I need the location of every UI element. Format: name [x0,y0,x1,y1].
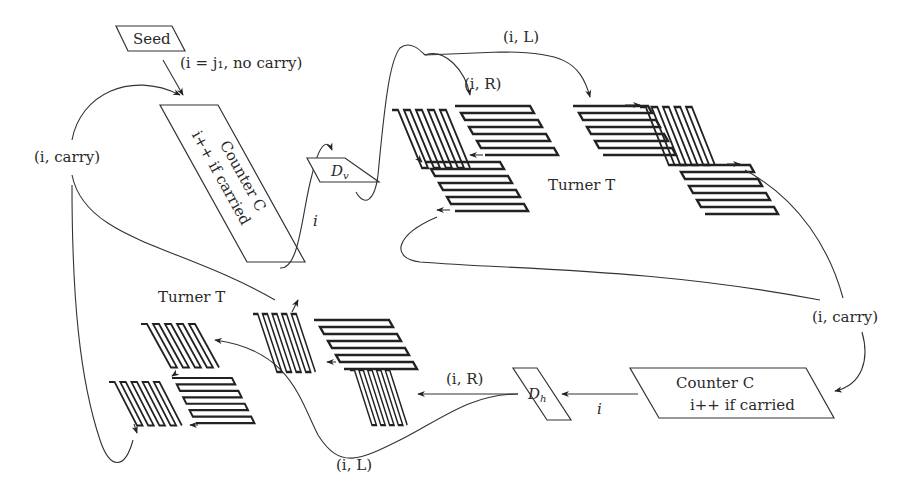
turner-bottom-out-edge [72,185,133,463]
dv-node: Dv [307,158,379,182]
counter-bottom-title: Counter C [676,374,754,392]
edge-iL-bottom: (i, L) [336,456,372,474]
counter-top-node: Counter C i++ if carried [160,105,305,262]
edge-i-bottom: i [597,400,602,418]
seed-label: Seed [133,30,171,48]
assembly-flow-diagram: Seed (i = j₁, no carry) Counter C i++ if… [0,0,922,498]
turner-top-return-edge [401,217,820,300]
turner-bottom-label: Turner T [158,288,225,306]
iL-bottom-edge [215,340,518,458]
counter-bottom-node: Counter C i++ if carried [630,368,834,418]
turner-bottom-right-blocks [253,300,417,425]
edge-i-top: i [313,212,318,230]
carry-to-counter-bottom-edge [835,332,865,391]
counter-bottom-rule: i++ if carried [690,396,795,414]
edge-carry-left: (i, carry) [34,148,100,166]
edge-carry-right: (i, carry) [812,308,878,326]
turner-top-out-edge [745,170,843,298]
edge-iL-top: (i, L) [503,28,539,46]
turner-bottom-left-blocks [109,324,254,433]
iL-top-edge [425,52,590,97]
edge-iR-top: (i, R) [464,75,501,93]
seed-init-label: (i = j₁, no carry) [180,54,302,72]
turner-top-right-blocks [573,105,778,214]
seed-node: Seed [116,26,185,51]
turner-top-left-blocks [392,106,558,211]
edge-iR-bottom: (i, R) [446,370,483,388]
turner-top-label: Turner T [548,176,615,194]
